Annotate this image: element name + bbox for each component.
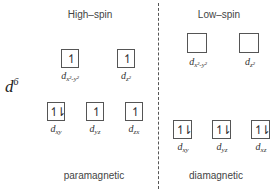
hs-dz2-orbital-box: ↿	[117, 49, 135, 68]
hs-dx2y2-orbital-box: ↿	[61, 49, 79, 68]
electron-arrows: ↿⇂	[214, 124, 228, 136]
electron-configuration-label: d6	[5, 76, 19, 97]
hs-dxy-label: dxy	[50, 123, 61, 136]
ls-dxy-label: dxy	[177, 141, 188, 154]
hs-dzx-orbital-box: ↿	[125, 102, 143, 121]
ls-dxz-label: dxz	[256, 141, 267, 154]
electron-arrows: ↿⇂	[49, 106, 63, 118]
high-spin-title: High–spin	[68, 9, 112, 20]
electron-arrows: ↿⇂	[253, 124, 267, 136]
hs-dxy-orbital-box: ↿⇂	[47, 102, 65, 121]
ls-dx2y2-orbital-box	[187, 33, 207, 53]
ls-dyz-orbital-box: ↿⇂	[212, 120, 231, 139]
hs-dx2y2-label: dx²-y²	[61, 70, 79, 83]
low-spin-title: Low–spin	[198, 9, 240, 20]
paramagnetic-label: paramagnetic	[64, 170, 125, 181]
ls-dxz-orbital-box: ↿⇂	[251, 120, 270, 139]
hs-dzx-label: dzx	[129, 123, 140, 136]
ls-dz2-label: dz²	[245, 56, 255, 69]
ls-dyz-label: dyz	[217, 141, 228, 154]
electron-arrows: ↿⇂	[175, 124, 189, 136]
dashed-divider	[158, 3, 159, 189]
hs-dyz-orbital-box: ↿	[86, 102, 104, 121]
electron-arrows: ↿	[66, 53, 73, 65]
diamagnetic-label: diamagnetic	[189, 170, 243, 181]
ls-dxy-orbital-box: ↿⇂	[173, 120, 192, 139]
ls-dz2-orbital-box	[239, 33, 259, 53]
ls-dx2y2-label: dx²-y²	[189, 56, 207, 69]
hs-dz2-label: dz²	[121, 70, 131, 83]
electron-arrows: ↿	[130, 106, 137, 118]
hs-dyz-label: dyz	[90, 123, 101, 136]
electron-arrows: ↿	[91, 106, 98, 118]
electron-arrows: ↿	[122, 53, 129, 65]
